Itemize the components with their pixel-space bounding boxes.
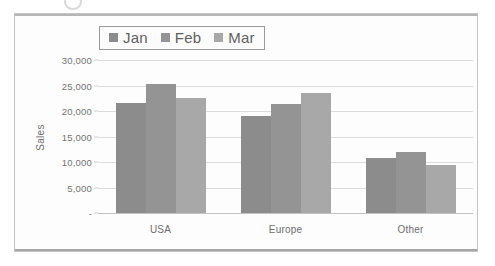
y-axis-tick-label: 15,000 <box>62 131 92 142</box>
bar-usa-mar[interactable] <box>176 98 206 213</box>
legend-entry-mar[interactable]: Mar <box>214 30 254 45</box>
y-axis-title: Sales <box>35 108 46 168</box>
bar-europe-feb[interactable] <box>271 104 301 213</box>
bar-group-europe <box>241 60 331 213</box>
legend-entry-feb[interactable]: Feb <box>161 30 201 45</box>
bar-other-mar[interactable] <box>426 165 456 213</box>
bar-other-feb[interactable] <box>396 152 426 213</box>
legend-swatch-icon <box>214 33 223 42</box>
bar-usa-feb[interactable] <box>146 84 176 213</box>
frame-bottom-rule <box>15 249 477 251</box>
bar-group-other <box>366 60 456 213</box>
category-label-other: Other <box>366 224 456 235</box>
plot-area: -5,00010,00015,00020,00025,00030,000 <box>98 60 473 213</box>
frame-top-rule <box>15 14 477 16</box>
chart-frame: JanFebMar Sales -5,00010,00015,00020,000… <box>14 13 478 252</box>
category-label-usa: USA <box>116 224 206 235</box>
legend-entry-jan[interactable]: Jan <box>109 30 148 45</box>
legend-label: Mar <box>228 30 254 45</box>
legend-label: Jan <box>123 30 148 45</box>
bar-europe-mar[interactable] <box>301 93 331 213</box>
bar-groups <box>98 60 473 213</box>
category-axis-labels: USAEuropeOther <box>98 224 473 235</box>
bar-other-jan[interactable] <box>366 158 396 213</box>
y-axis-tick-label: 10,000 <box>62 157 92 168</box>
chart-screenshot: JanFebMar Sales -5,00010,00015,00020,000… <box>0 0 495 266</box>
chart-legend: JanFebMar <box>99 26 265 50</box>
y-axis-tick-label: 30,000 <box>62 55 92 66</box>
y-axis-tick-label: 20,000 <box>62 106 92 117</box>
gridline <box>98 213 473 214</box>
y-axis-tick-label: 25,000 <box>62 80 92 91</box>
legend-swatch-icon <box>109 33 118 42</box>
y-axis-tick-label: - <box>89 208 92 219</box>
bar-group-usa <box>116 60 206 213</box>
y-axis-tick-label: 5,000 <box>67 182 92 193</box>
bar-usa-jan[interactable] <box>116 103 146 213</box>
category-label-europe: Europe <box>241 224 331 235</box>
scan-artifact <box>64 0 82 10</box>
legend-label: Feb <box>175 30 201 45</box>
bar-europe-jan[interactable] <box>241 116 271 213</box>
legend-swatch-icon <box>161 33 170 42</box>
